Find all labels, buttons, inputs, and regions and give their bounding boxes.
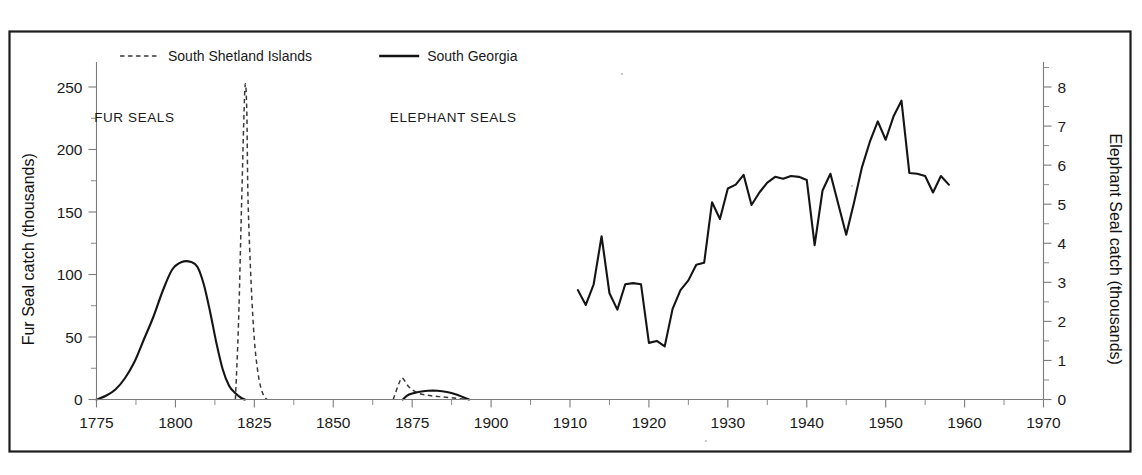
y-left-tick-label: 50	[65, 329, 83, 346]
y-right-tick-label: 5	[1058, 196, 1067, 213]
x-tick-label: 1900	[474, 414, 509, 431]
legend-label: South Shetland Islands	[168, 48, 312, 64]
y-axis-right-title: Elephant Seal catch (thousands)	[1107, 134, 1124, 365]
x-tick-label: 1930	[711, 414, 746, 431]
y-right-tick-label: 4	[1058, 235, 1067, 252]
section-label: FUR SEALS	[94, 110, 174, 125]
y-right-tick-label: 8	[1058, 79, 1067, 96]
figure-border	[10, 32, 1131, 452]
x-tick-label: 1940	[790, 414, 825, 431]
x-tick-label: 1825	[237, 414, 271, 431]
y-left-tick-label: 150	[57, 204, 83, 221]
scan-speck	[705, 440, 707, 442]
x-tick-label: 1875	[395, 414, 429, 431]
y-left-tick-label: 100	[57, 266, 83, 283]
y-right-tick-label: 1	[1058, 352, 1067, 369]
y-right-tick-label: 6	[1058, 157, 1067, 174]
y-right-tick-label: 3	[1058, 274, 1067, 291]
figure-root: 1775180018251850187519001910192019301940…	[0, 0, 1142, 475]
x-tick-label: 1920	[632, 414, 667, 431]
y-axis-left-title: Fur Seal catch (thousands)	[20, 153, 37, 345]
y-right-tick-label: 0	[1058, 391, 1067, 408]
x-tick-label: 1950	[868, 414, 903, 431]
chart-canvas: 1775180018251850187519001910192019301940…	[0, 0, 1142, 475]
y-right-tick-label: 2	[1058, 313, 1067, 330]
x-tick-label: 1910	[553, 414, 588, 431]
scan-speck	[851, 185, 853, 187]
x-tick-label: 1800	[158, 414, 193, 431]
scan-speck	[621, 73, 623, 75]
x-tick-label: 1970	[1026, 414, 1061, 431]
x-tick-label: 1775	[79, 414, 113, 431]
y-right-tick-label: 7	[1058, 118, 1067, 135]
y-left-tick-label: 0	[74, 391, 83, 408]
legend-label: South Georgia	[427, 48, 517, 64]
y-left-tick-label: 250	[57, 79, 83, 96]
y-left-tick-label: 200	[57, 141, 83, 158]
section-label: ELEPHANT SEALS	[390, 110, 517, 125]
x-tick-label: 1960	[947, 414, 982, 431]
x-tick-label: 1850	[316, 414, 351, 431]
